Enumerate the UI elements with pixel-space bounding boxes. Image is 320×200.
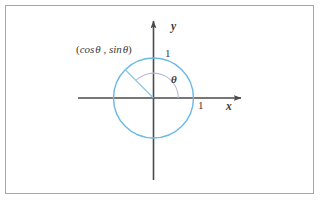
y-axis-label: y — [171, 21, 176, 33]
point-label-close-paren: ) — [128, 43, 132, 55]
theta-angle-label: θ — [171, 74, 177, 85]
x-axis-tick-label-one: 1 — [198, 100, 204, 111]
point-label-cos: cos — [80, 43, 95, 55]
x-axis-label: x — [226, 101, 232, 113]
point-label-comma: , — [101, 43, 109, 55]
y-axis-tick-label-one: 1 — [165, 48, 171, 59]
figure-canvas: (cos θ , sin θ) y x 1 1 θ — [0, 0, 320, 200]
point-coordinates-label: (cos θ , sin θ) — [76, 44, 132, 55]
unit-circle-plot — [0, 0, 320, 200]
point-label-sin: sin — [109, 43, 122, 55]
